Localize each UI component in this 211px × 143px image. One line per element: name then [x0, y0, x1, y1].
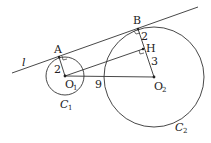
label-c1: C 1 [60, 98, 72, 112]
segment-o1o2 [65, 76, 154, 77]
svg-text:1: 1 [73, 84, 77, 92]
label-radius-2: 2 [54, 63, 61, 76]
label-line-l: l [22, 56, 26, 69]
label-o1: O 1 [65, 78, 77, 92]
geometry-diagram: l A B H 2 2 3 9 O 1 O 2 C 1 C 2 [0, 0, 211, 143]
point-a [58, 56, 60, 58]
label-c2: C 2 [175, 121, 187, 135]
label-bh-2: 2 [141, 30, 148, 43]
point-h [142, 48, 144, 50]
point-o1 [64, 75, 67, 78]
label-ho2-3: 3 [151, 55, 158, 68]
svg-text:2: 2 [162, 86, 166, 94]
tangent-line-l [12, 7, 198, 73]
label-distance-9: 9 [95, 78, 102, 91]
point-b [137, 28, 139, 30]
label-b: B [133, 14, 141, 27]
label-o2: O 2 [154, 80, 166, 94]
svg-text:1: 1 [68, 104, 72, 112]
point-o2 [153, 76, 156, 79]
svg-text:2: 2 [183, 127, 187, 135]
label-h: H [146, 42, 156, 55]
label-a: A [53, 43, 63, 56]
